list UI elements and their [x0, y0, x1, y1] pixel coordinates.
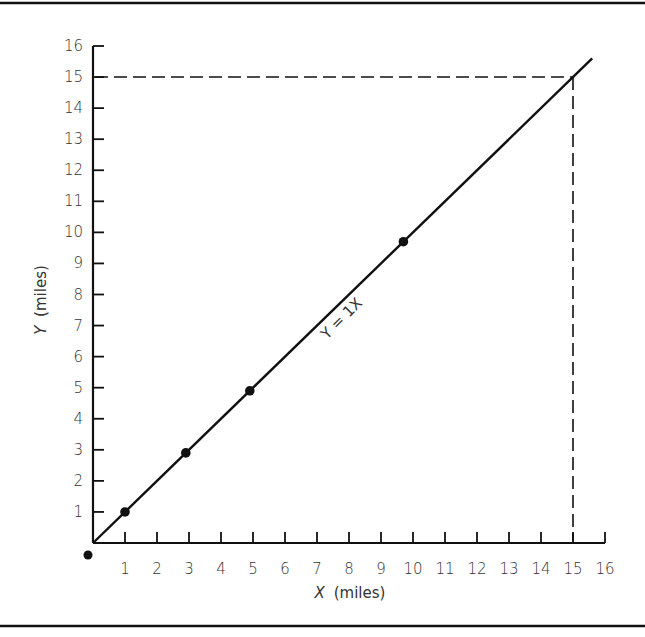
x-tick-label: 13 [499, 560, 518, 578]
y-tick-label: 12 [64, 161, 83, 179]
x-tick-label: 6 [280, 560, 290, 578]
x-axis-unit: (miles) [334, 584, 386, 602]
y-tick-label: 5 [73, 379, 83, 397]
x-tick-label: 11 [435, 560, 454, 578]
x-tick-label: 3 [184, 560, 194, 578]
x-tick-label: 16 [595, 560, 614, 578]
x-axis-title: X (miles) [314, 584, 386, 602]
x-tick-label: 14 [531, 560, 550, 578]
x-axis-var: X [314, 584, 326, 602]
x-tick-label: 5 [248, 560, 258, 578]
y-axis-unit: (miles) [32, 265, 50, 317]
y-tick-label: 7 [73, 317, 83, 335]
x-tick-label: 7 [312, 560, 322, 578]
y-tick-label: 15 [64, 68, 83, 86]
x-tick-label: 2 [152, 560, 162, 578]
y-axis-title: Y (miles) [32, 265, 50, 335]
y-tick-label: 6 [73, 348, 83, 366]
y-tick-label: 4 [73, 410, 83, 428]
data-point [245, 386, 255, 396]
x-tick-label: 12 [467, 560, 486, 578]
data-point [399, 237, 409, 247]
y-tick-label: 1 [73, 503, 83, 521]
x-tick-label: 9 [376, 560, 386, 578]
y-tick-label: 10 [64, 223, 83, 241]
data-point [120, 507, 130, 517]
series-line [93, 58, 592, 543]
y-axis-var: Y [32, 324, 50, 335]
y-tick-label: 14 [64, 99, 83, 117]
y-tick-label: 9 [73, 254, 83, 272]
x-tick-label: 4 [216, 560, 226, 578]
x-tick-label: 1 [120, 560, 130, 578]
y-tick-label: 13 [64, 130, 83, 148]
data-point [181, 448, 191, 458]
y-tick-label: 2 [73, 472, 83, 490]
x-tick-label: 8 [344, 560, 354, 578]
y-tick-label: 8 [73, 286, 83, 304]
y-tick-label: 3 [73, 441, 83, 459]
origin-point [84, 551, 93, 560]
chart: 1234567891011121314151612345678910111213… [0, 0, 645, 637]
x-tick-label: 15 [563, 560, 582, 578]
y-tick-label: 11 [64, 192, 83, 210]
y-tick-label: 16 [64, 37, 83, 55]
x-tick-label: 10 [403, 560, 422, 578]
